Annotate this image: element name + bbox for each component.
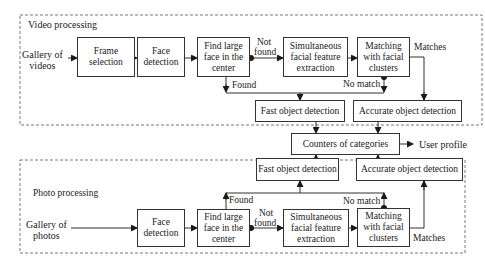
video-frame-selection-box: Frame selection [77,37,135,77]
box-line: extraction [290,63,342,74]
video-found-edge-label: Found [232,80,256,91]
gallery-videos-line1: Gallery of [22,49,63,60]
box-line: Frame [89,46,123,57]
gallery-of-videos-label: Gallery of videos [22,49,63,71]
box-line: center [204,63,244,74]
video-found-label: found [254,47,276,58]
video-feature-extraction-box: Simultaneous facial feature extraction [283,37,348,77]
box-line: facial feature [290,52,342,63]
video-find-large-face-box: Find large face in the center [197,37,250,77]
video-matching-box: Matching with facial clusters [357,37,410,77]
box-line: detection [144,228,179,239]
box-line: facial feature [290,223,342,234]
box-line: clusters [363,233,403,244]
photo-feature-extraction-box: Simultaneous facial feature extraction [283,209,349,247]
counters-of-categories-box: Counters of categories [291,133,400,155]
video-processing-title: Video processing [28,19,97,30]
box-line: extraction [290,234,342,245]
photo-matching-box: Matching with facial clusters [357,208,410,247]
box-line: face in the [204,223,244,234]
box-line: Matching [363,211,403,222]
photo-face-detection-box: Face detection [137,209,185,247]
video-accurate-detection-box: Accurate object detection [353,100,462,122]
photo-no-match-label: No match [343,196,380,207]
video-fast-detection-box: Fast object detection [255,100,345,122]
box-line: Find large [204,41,244,52]
photo-fast-detection-box: Fast object detection [256,158,339,181]
box-line: detection [144,57,179,68]
box-line: center [204,234,244,245]
gallery-photos-line2: photos [26,230,67,241]
box-line: Simultaneous [290,41,342,52]
video-matches-label: Matches [414,42,446,53]
gallery-photos-line1: Gallery of [26,219,67,230]
photo-accurate-detection-box: Accurate object detection [356,158,463,181]
box-line: Find large [204,212,244,223]
box-line: face in the [204,52,244,63]
box-line: with facial [363,52,403,63]
box-line: Simultaneous [290,212,342,223]
photo-processing-title: Photo processing [33,188,98,199]
gallery-of-photos-label: Gallery of photos [26,219,67,241]
photo-found-label: found [254,218,276,229]
photo-found-edge-label: Found [229,195,253,206]
video-no-match-label: No match [343,79,380,90]
box-line: Face [144,217,179,228]
video-face-detection-box: Face detection [137,37,185,77]
box-line: with facial [363,222,403,233]
gallery-videos-line2: videos [22,60,63,71]
box-line: clusters [363,63,403,74]
box-line: Matching [363,41,403,52]
box-line: Face [144,46,179,57]
box-line: selection [89,57,123,68]
user-profile-label: User profile [419,139,467,150]
photo-find-large-face-box: Find large face in the center [197,209,250,247]
photo-matches-label: Matches [413,233,445,244]
